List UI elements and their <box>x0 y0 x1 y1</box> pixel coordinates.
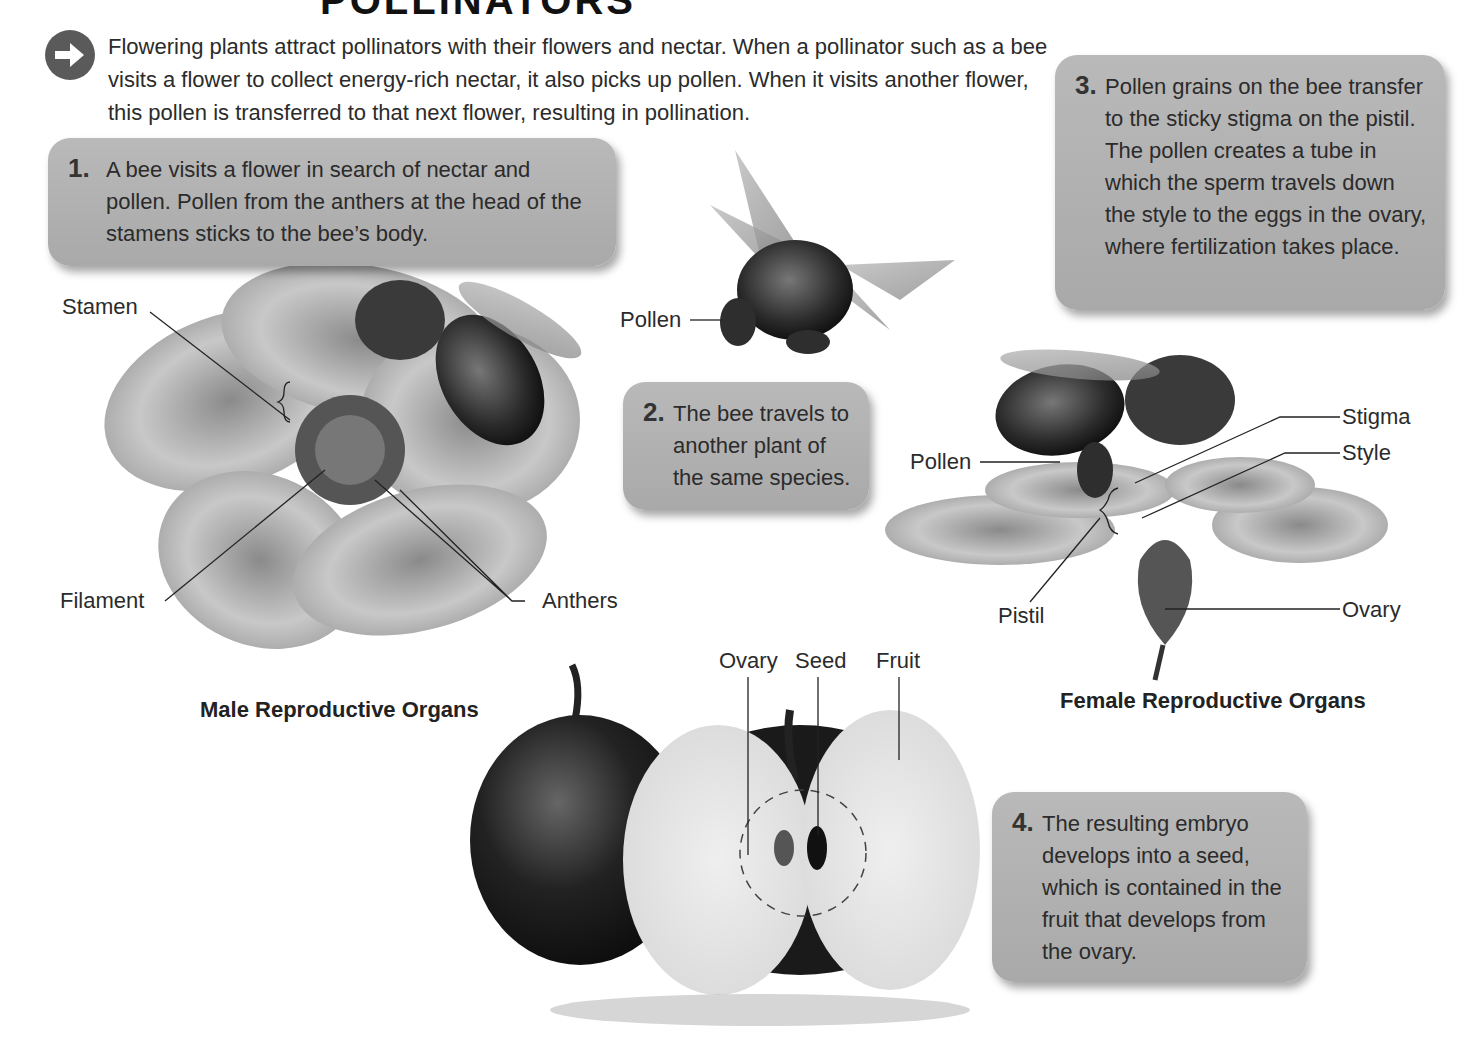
label-stamen: Stamen <box>62 294 138 320</box>
step-text: The bee travels to another plant of the … <box>673 401 850 490</box>
label-ovary-female: Ovary <box>1342 597 1401 623</box>
male-flower-illustration <box>79 242 590 682</box>
apple-illustration <box>470 665 980 1026</box>
label-ovary-apple: Ovary <box>719 648 778 674</box>
step-number: 3. <box>1075 69 1097 101</box>
step-4-box: 4. The resulting embryo develops into a … <box>992 792 1307 982</box>
label-anthers: Anthers <box>542 588 618 614</box>
step-3-box: 3. Pollen grains on the bee transfer to … <box>1055 55 1445 310</box>
female-flower-illustration <box>885 344 1388 680</box>
step-number: 4. <box>1012 806 1034 838</box>
label-stigma: Stigma <box>1342 404 1410 430</box>
step-number: 1. <box>68 152 90 184</box>
label-seed: Seed <box>795 648 846 674</box>
step-text: A bee visits a flower in search of necta… <box>106 157 582 246</box>
step-1-box: 1. A bee visits a flower in search of ne… <box>48 138 616 266</box>
male-organs-caption: Male Reproductive Organs <box>200 697 479 723</box>
step-text: Pollen grains on the bee transfer to the… <box>1105 74 1426 259</box>
label-filament: Filament <box>60 588 144 614</box>
step-2-box: 2. The bee travels to another plant of t… <box>623 382 869 510</box>
step-number: 2. <box>643 396 665 428</box>
flying-bee-illustration <box>690 150 955 354</box>
step-text: The resulting embryo develops into a see… <box>1042 811 1282 964</box>
label-fruit: Fruit <box>876 648 920 674</box>
label-pollen-flying-bee: Pollen <box>620 307 681 333</box>
female-organs-caption: Female Reproductive Organs <box>1060 688 1366 714</box>
label-pollen-female: Pollen <box>910 449 971 475</box>
label-style: Style <box>1342 440 1391 466</box>
label-pistil: Pistil <box>998 603 1044 629</box>
